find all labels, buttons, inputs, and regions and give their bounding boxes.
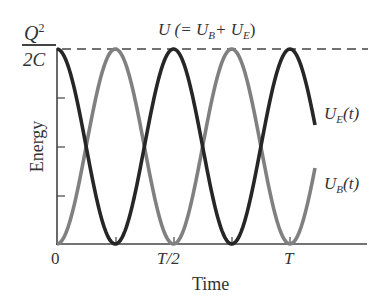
q-squared-label: Q2	[24, 18, 44, 43]
x-axis-label: Time	[192, 274, 229, 295]
ub-label: UB(t)	[324, 174, 359, 195]
axes	[56, 48, 367, 245]
y-axis-label: Energy	[27, 112, 48, 182]
x-tick-half-period: T/2	[157, 249, 180, 269]
ue-label: UE(t)	[324, 104, 359, 125]
fraction-bar	[22, 44, 56, 46]
2c-label: 2C	[23, 49, 45, 71]
x-tick-period: T	[284, 249, 293, 269]
x-tick-0: 0	[51, 249, 60, 269]
total-energy-label: U (= UB+ UE)	[158, 20, 255, 41]
